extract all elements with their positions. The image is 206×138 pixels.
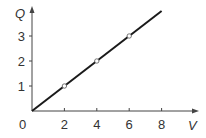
x-axis-arrow-icon bbox=[192, 109, 199, 114]
axes bbox=[30, 6, 200, 114]
chart-plot-area: 2468123 Q V 0 bbox=[0, 0, 206, 138]
x-tick-label: 2 bbox=[61, 117, 68, 132]
y-axis-arrow-icon bbox=[30, 6, 35, 13]
data-point-marker bbox=[95, 59, 99, 63]
x-tick-label: 8 bbox=[158, 117, 165, 132]
data-point-marker bbox=[127, 34, 131, 38]
x-tick-label: 4 bbox=[93, 117, 100, 132]
tick-marks bbox=[29, 36, 162, 111]
tick-labels: 2468123 bbox=[18, 29, 165, 133]
y-tick-label: 1 bbox=[18, 79, 25, 94]
chart: 2468123 Q V 0 bbox=[0, 0, 206, 138]
data-series bbox=[32, 11, 162, 111]
y-tick-label: 3 bbox=[18, 29, 25, 44]
y-axis-label: Q bbox=[15, 6, 25, 21]
data-point-marker bbox=[62, 84, 66, 88]
x-tick-label: 6 bbox=[126, 117, 133, 132]
origin-label: 0 bbox=[19, 117, 26, 132]
x-axis-label: V bbox=[188, 118, 198, 133]
y-tick-label: 2 bbox=[18, 54, 25, 69]
